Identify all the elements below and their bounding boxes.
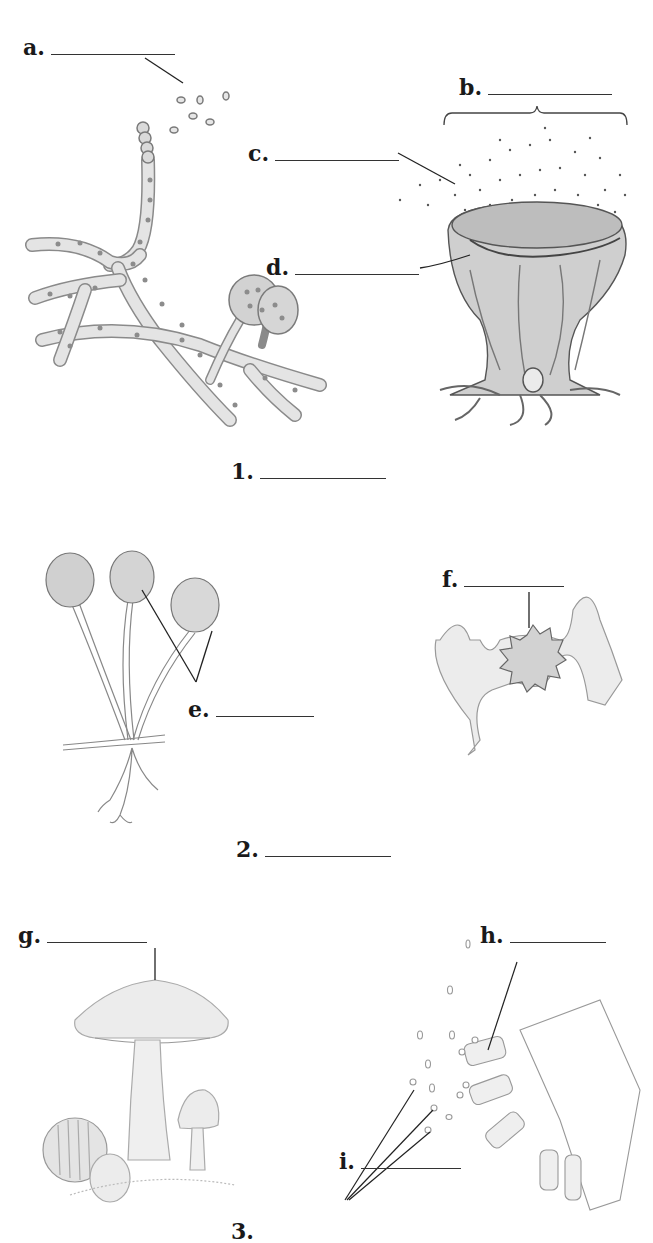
label-group-2-number: 2.	[236, 838, 259, 860]
label-h-letter: h.	[480, 924, 504, 946]
answer-blank-e[interactable]	[216, 716, 314, 717]
label-group-3: 3.	[231, 1220, 260, 1242]
label-g-letter: g.	[18, 924, 41, 946]
zygospore-spiny	[500, 625, 566, 692]
label-group-2: 2.	[236, 838, 391, 860]
sporangia-figure	[46, 551, 219, 823]
brace	[444, 106, 627, 125]
answer-blank-a[interactable]	[51, 54, 175, 55]
answer-blank-c[interactable]	[275, 160, 399, 161]
label-c-letter: c.	[248, 142, 269, 164]
label-b: b.	[459, 76, 612, 98]
answer-blank-b[interactable]	[488, 94, 612, 95]
answer-blank-i[interactable]	[361, 1168, 461, 1169]
label-f-letter: f.	[442, 568, 458, 590]
label-group-3-number: 3.	[231, 1220, 254, 1242]
label-group-1-number: 1.	[231, 460, 254, 482]
label-group-1: 1.	[231, 460, 386, 482]
label-b-letter: b.	[459, 76, 482, 98]
answer-blank-h[interactable]	[510, 942, 606, 943]
label-f: f.	[442, 568, 564, 590]
label-e-letter: e.	[188, 698, 210, 720]
mushroom-figure	[43, 980, 235, 1202]
answer-blank-f[interactable]	[464, 586, 564, 587]
label-i-letter: i.	[339, 1150, 355, 1172]
label-a: a.	[23, 36, 175, 58]
answer-blank-d[interactable]	[295, 274, 419, 275]
label-d-letter: d.	[266, 256, 289, 278]
label-d: d.	[266, 256, 419, 278]
label-g: g.	[18, 924, 147, 946]
answer-blank-1[interactable]	[260, 478, 386, 479]
answer-blank-g[interactable]	[47, 942, 147, 943]
label-c: c.	[248, 142, 399, 164]
cup-fungus	[440, 202, 626, 425]
answer-blank-2[interactable]	[265, 856, 391, 857]
label-h: h.	[480, 924, 606, 946]
label-e: e.	[188, 698, 314, 720]
label-a-letter: a.	[23, 36, 45, 58]
label-i: i.	[339, 1150, 461, 1172]
